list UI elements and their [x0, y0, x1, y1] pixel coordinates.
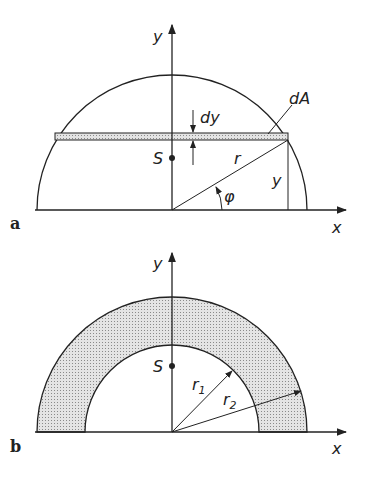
S-label: S: [153, 149, 163, 168]
figure-canvas: y x dA dy S r y φ a y x S r1 r2 b: [0, 0, 379, 484]
S-label: S: [153, 357, 163, 376]
dy-label: dy: [200, 108, 220, 127]
figure-b: y x S r1 r2 b: [10, 253, 346, 458]
dA-label: dA: [289, 89, 310, 108]
r-label: r: [234, 149, 242, 168]
figure-a-tag: a: [10, 214, 20, 233]
phi-label: φ: [224, 187, 235, 206]
y-label: y: [271, 171, 282, 190]
r1-label: r1: [192, 375, 206, 397]
figure-b-tag: b: [10, 437, 21, 456]
centroid-S: [169, 155, 175, 161]
centroid-S: [169, 363, 175, 369]
figure-a: y x dA dy S r y φ a: [10, 25, 346, 237]
angle-arc: [216, 187, 222, 210]
y-axis-label: y: [152, 254, 163, 273]
y-axis-label: y: [152, 27, 163, 46]
x-axis-label: x: [331, 439, 342, 458]
x-axis-label: x: [331, 218, 342, 237]
r2-label: r2: [223, 390, 237, 412]
